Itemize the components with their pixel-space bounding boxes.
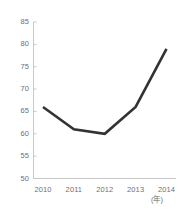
x-axis-tick-label: 2010 xyxy=(30,186,56,194)
y-axis-tick-label: 65 xyxy=(13,107,29,115)
y-axis-tick-label: 50 xyxy=(13,175,29,183)
x-axis-tick-label: 2012 xyxy=(92,186,118,194)
x-axis-tick-label: 2014 xyxy=(154,186,180,194)
y-axis-tick-label: 75 xyxy=(13,63,29,71)
x-axis-unit-label: (年) xyxy=(151,196,163,204)
x-axis-tick-label: 2011 xyxy=(61,186,87,194)
line-chart: 5055606570758085 20102011201220132014 (年… xyxy=(0,0,182,216)
data-series-line xyxy=(43,49,167,134)
x-axis-tick-label: 2013 xyxy=(123,186,149,194)
y-axis-tick-label: 85 xyxy=(13,18,29,26)
y-axis-tick-label: 80 xyxy=(13,40,29,48)
y-axis-tick-label: 70 xyxy=(13,85,29,93)
y-axis-tick-label: 60 xyxy=(13,130,29,138)
y-axis-tick-label: 55 xyxy=(13,152,29,160)
